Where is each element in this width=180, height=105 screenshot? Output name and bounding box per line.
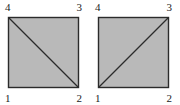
node-label-bottom-left: 1: [5, 93, 11, 104]
node-label-bottom-right: 2: [77, 93, 83, 104]
quadrilateral-left-graphic: [0, 0, 90, 105]
quadrilateral-right: 4 3 1 2: [90, 0, 180, 105]
node-label-bottom-right: 2: [167, 93, 173, 104]
node-label-top-right: 3: [77, 2, 83, 13]
quadrilateral-right-graphic: [90, 0, 180, 105]
node-label-top-right: 3: [167, 2, 173, 13]
node-label-bottom-left: 1: [95, 93, 101, 104]
node-label-top-left: 4: [5, 2, 11, 13]
node-label-top-left: 4: [95, 2, 101, 13]
quadrilateral-left: 4 3 1 2: [0, 0, 90, 105]
figure-canvas: 4 3 1 2 4 3 1 2: [0, 0, 180, 105]
